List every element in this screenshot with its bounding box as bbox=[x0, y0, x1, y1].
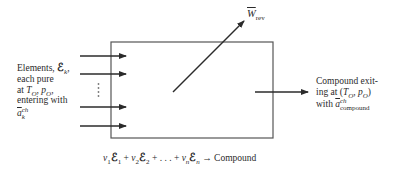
element-1: ℰ bbox=[111, 151, 118, 163]
inlet-label-text1: Elements, bbox=[17, 63, 55, 73]
inlet-label-line4: entering with bbox=[17, 95, 70, 106]
outlet-at: ing at ( bbox=[316, 87, 343, 97]
element-1-sub: 1 bbox=[118, 158, 122, 166]
outlet-label-line3: with achcompound bbox=[316, 98, 378, 112]
inlet-at: at bbox=[17, 85, 26, 95]
plus-1: + bbox=[124, 153, 129, 163]
inlet-label-line2: each pure bbox=[17, 74, 70, 85]
outlet-exergy-sub: compound bbox=[340, 105, 370, 112]
plus-3: + bbox=[174, 153, 179, 163]
work-label: Wrev bbox=[247, 9, 265, 20]
inlet-exergy-scripts: chk bbox=[22, 107, 29, 121]
inlet-exergy-sub: k bbox=[22, 114, 29, 121]
ellipsis-dots-icon bbox=[98, 83, 100, 97]
work-arrow bbox=[173, 21, 244, 92]
outlet-paren: ) bbox=[368, 87, 371, 97]
work-symbol: W bbox=[247, 8, 256, 19]
element-n-sub: n bbox=[196, 158, 200, 166]
inlet-label: Elements, ℰk, each pure at TO, pO, enter… bbox=[17, 62, 70, 121]
inlet-label-line5: achk bbox=[17, 107, 70, 121]
element-symbol-sub: k bbox=[64, 68, 67, 76]
outlet-exergy-scripts: chcompound bbox=[340, 98, 370, 112]
reaction-equation: ν1ℰ1 + ν2ℰ2 + . . . + νnℰn → Compound bbox=[103, 152, 256, 164]
work-sub: rev bbox=[256, 14, 265, 22]
outlet-label-line1: Compound exit- bbox=[316, 76, 378, 87]
inlet-label-line1: Elements, ℰk, bbox=[17, 62, 70, 74]
ellipsis: . . . bbox=[160, 153, 172, 163]
outlet-label: Compound exit- ing at (TO, pO) with achc… bbox=[316, 76, 378, 112]
outlet-with: with bbox=[316, 99, 335, 109]
plus-2: + bbox=[152, 153, 157, 163]
control-volume-box bbox=[111, 42, 273, 138]
inlet-label-line3: at TO, pO, bbox=[17, 85, 70, 96]
element-2: ℰ bbox=[139, 151, 146, 163]
product-compound: Compound bbox=[214, 153, 256, 163]
reaction-arrow: → bbox=[202, 153, 212, 163]
outlet-label-line2: ing at (TO, pO) bbox=[316, 87, 378, 98]
element-2-sub: 2 bbox=[146, 158, 150, 166]
